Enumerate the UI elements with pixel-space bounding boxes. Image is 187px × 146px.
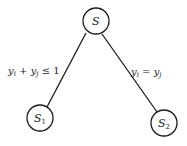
edge-label-s2: yi = yj (130, 66, 162, 79)
node-s-label: S (92, 15, 100, 28)
edge-label-s1: yi + yj ≤ 1 (7, 65, 60, 78)
node-s1: S1 (27, 105, 53, 131)
node-s: S (83, 8, 109, 34)
node-s2: S2 (151, 110, 177, 136)
tree-diagram: S S1 S2 yi + yj ≤ 1 yi = yj (0, 0, 187, 146)
